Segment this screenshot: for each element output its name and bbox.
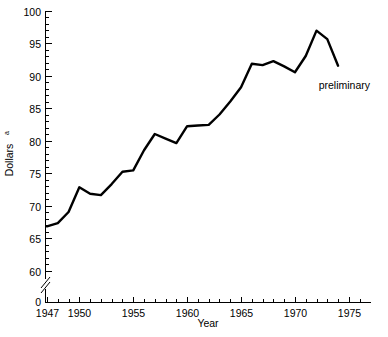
annotation-preliminary: preliminary <box>319 79 371 91</box>
x-tick-label: 1965 <box>230 307 254 319</box>
y-axis-title: Dollars <box>3 144 15 177</box>
x-tick-label: 1960 <box>176 307 200 319</box>
x-tick-label: 1950 <box>68 307 92 319</box>
y-tick-label: 75 <box>29 168 41 180</box>
x-tick-label: 1975 <box>338 307 362 319</box>
line-chart: 6065707580859095100 0 194719501955196019… <box>0 0 388 337</box>
y-tick-label: 100 <box>23 6 41 18</box>
y-tick-label: 70 <box>29 201 41 213</box>
y-axis-title-superscript: a <box>3 131 10 135</box>
x-tick-label: 1955 <box>122 307 146 319</box>
y-tick-label: 65 <box>29 233 41 245</box>
x-axis-title: Year <box>197 317 219 329</box>
y-tick-label: 95 <box>29 38 41 50</box>
chart-container: 6065707580859095100 0 194719501955196019… <box>0 0 388 337</box>
y-tick-label: 80 <box>29 136 41 148</box>
y-tick-label: 85 <box>29 103 41 115</box>
y-tick-label: 90 <box>29 71 41 83</box>
x-tick-label: 1970 <box>284 307 308 319</box>
y-tick-label: 60 <box>29 266 41 278</box>
chart-background <box>0 0 388 337</box>
x-tick-label: 1947 <box>36 307 60 319</box>
